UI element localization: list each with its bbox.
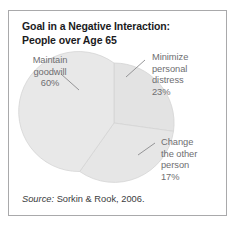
pie-label-maintain-goodwill-value: 60% bbox=[17, 78, 83, 90]
pie-chart-svg bbox=[9, 11, 228, 217]
source-citation: Sorkin & Rook, 2006. bbox=[54, 194, 144, 204]
pie-label-change-other-line-2: the other bbox=[161, 149, 223, 161]
pie-label-minimize-distress-line-3: distress bbox=[152, 75, 222, 87]
pie-label-minimize-distress-line-2: personal bbox=[152, 64, 222, 76]
pie-label-change-other-line-3: person bbox=[161, 160, 223, 172]
pie-label-maintain-goodwill-line-1: Maintain bbox=[17, 55, 83, 67]
figure-frame: Goal in a Negative Interaction: People o… bbox=[8, 10, 227, 216]
pie-chart bbox=[9, 11, 228, 217]
pie-label-change-other-value: 17% bbox=[161, 172, 223, 184]
source-note: Source: Sorkin & Rook, 2006. bbox=[22, 193, 144, 205]
pie-label-maintain-goodwill: Maintain goodwill 60% bbox=[17, 55, 83, 90]
pie-label-minimize-distress-line-1: Minimize bbox=[152, 52, 222, 64]
pie-label-change-other: Change the other person 17% bbox=[161, 137, 223, 183]
source-label: Source: bbox=[22, 194, 54, 204]
pie-label-minimize-distress-value: 23% bbox=[152, 87, 222, 99]
pie-label-maintain-goodwill-line-2: goodwill bbox=[17, 67, 83, 79]
pie-label-change-other-line-1: Change bbox=[161, 137, 223, 149]
pie-label-minimize-distress: Minimize personal distress 23% bbox=[152, 52, 222, 98]
